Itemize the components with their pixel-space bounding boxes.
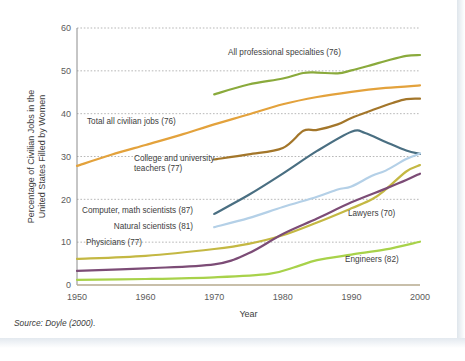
x-tick-2000: 2000 (410, 292, 430, 302)
series-annotation-0: All professional specialties (76) (228, 48, 341, 57)
x-tick-1960: 1960 (136, 292, 156, 302)
series-line-3 (214, 130, 420, 214)
y-axis-title-line-2: United States Filled by Women (37, 95, 47, 218)
y-tick-labels: 0102030405060 (61, 23, 71, 290)
y-axis-title-line-1: Percentage of Civilian Jobs in the (26, 90, 36, 224)
x-tick-labels: 195019601970198019902000 (67, 292, 430, 302)
x-tick-1980: 1980 (273, 292, 293, 302)
series-annotation-1: Total all civilian jobs (76) (87, 117, 176, 126)
series-annotation-2: College and university (134, 154, 215, 163)
page-edge-bottom (0, 338, 465, 348)
x-tick-1970: 1970 (204, 292, 224, 302)
x-tick-1950: 1950 (67, 292, 87, 302)
x-axis-title: Year (239, 309, 257, 319)
y-tick-60: 60 (61, 23, 71, 33)
figure-card: 0102030405060 195019601970198019902000 A… (0, 0, 457, 338)
series-annotation-7: Engineers (82) (345, 255, 399, 264)
source-note: Source: Doyle (2000). (14, 318, 95, 328)
series-annotation-2: teachers (77) (134, 164, 183, 173)
y-axis-title: Percentage of Civilian Jobs in theUnited… (26, 90, 47, 224)
y-tick-30: 30 (61, 152, 71, 162)
series-annotation-5: Physicians (77) (86, 238, 142, 247)
y-tick-50: 50 (61, 66, 71, 76)
y-tick-0: 0 (66, 280, 71, 290)
page-bottom-strip (0, 348, 465, 361)
series-annotation-3: Computer, math scientists (87) (82, 206, 193, 215)
page-edge-right (457, 0, 465, 348)
y-tick-40: 40 (61, 109, 71, 119)
x-axis-title: Year (239, 309, 257, 319)
y-tick-10: 10 (61, 237, 71, 247)
y-tick-20: 20 (61, 195, 71, 205)
line-chart: 0102030405060 195019601970198019902000 A… (0, 0, 457, 320)
x-tick-1990: 1990 (341, 292, 361, 302)
series-annotation-6: Lawyers (70) (348, 209, 396, 218)
series-annotation-4: Natural scientists (81) (114, 222, 193, 231)
